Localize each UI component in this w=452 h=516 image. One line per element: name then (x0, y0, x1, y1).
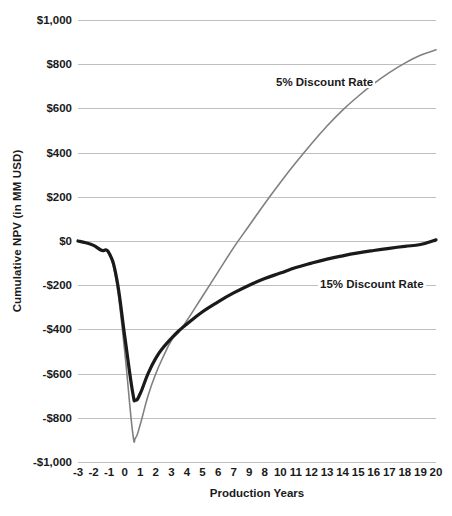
x-axis-tick-label: 14 (336, 466, 349, 478)
y-axis-tick-label: -$400 (6, 323, 78, 335)
x-axis-tick-label: 17 (383, 466, 396, 478)
x-axis-tick-label: 0 (121, 466, 127, 478)
x-axis-tick-label: 18 (398, 466, 411, 478)
cumulative-npv-chart: Cumulative NPV (in MM USD) $1,000$800$60… (0, 0, 452, 516)
x-axis-tick-label: 7 (230, 466, 236, 478)
x-axis-tick-label: 1 (137, 466, 143, 478)
y-axis-tick-label: $800 (6, 58, 78, 70)
x-axis-tick-label: 20 (430, 466, 443, 478)
y-axis-tick-label: $400 (6, 147, 78, 159)
x-axis-tick-label: 11 (290, 466, 302, 478)
y-axis-tick-label: $0 (6, 235, 78, 247)
gridline (78, 462, 436, 463)
x-axis-tick-label: 5 (199, 466, 205, 478)
x-axis-tick-labels: -3-2-101234567981011121314151617181920 (78, 466, 436, 484)
x-axis-tick-label: 6 (215, 466, 221, 478)
y-axis-tick-labels: $1,000$800$600$400$200$0-$200-$400-$600-… (0, 0, 78, 516)
x-axis-tick-label: 8 (262, 466, 268, 478)
x-axis-tick-label: -3 (73, 466, 83, 478)
x-axis-tick-label: 19 (414, 466, 427, 478)
y-axis-tick-label: $600 (6, 102, 78, 114)
y-axis-tick-label: $1,000 (6, 14, 78, 26)
y-axis-title: Cumulative NPV (in MM USD) (0, 0, 34, 462)
y-axis-tick-label: -$600 (6, 368, 78, 380)
x-axis-tick-label: 16 (367, 466, 380, 478)
x-axis-tick-label: 2 (153, 466, 159, 478)
x-axis-tick-label: 9 (246, 466, 252, 478)
x-axis-tick-label: 15 (352, 466, 365, 478)
x-axis-tick-label: 10 (274, 466, 287, 478)
series-annotation-15-percent: 15% Discount Rate (318, 278, 426, 290)
x-axis-tick-label: 3 (168, 466, 174, 478)
y-axis-title-label: Cumulative NPV (in MM USD) (11, 150, 23, 313)
x-axis-tick-label: -2 (88, 466, 98, 478)
series-annotation-5-percent: 5% Discount Rate (274, 76, 375, 88)
x-axis-tick-label: 13 (321, 466, 334, 478)
y-axis-tick-label: $200 (6, 191, 78, 203)
x-axis-tick-label: 4 (184, 466, 190, 478)
plot-area: 5% Discount Rate 15% Discount Rate (78, 20, 436, 462)
y-axis-tick-label: -$800 (6, 412, 78, 424)
series-line (78, 240, 436, 401)
x-axis-tick-label: -1 (104, 466, 114, 478)
x-axis-title: Production Years (78, 487, 436, 499)
y-axis-tick-label: -$200 (6, 279, 78, 291)
series-lines (78, 20, 436, 462)
x-axis-tick-label: 12 (305, 466, 318, 478)
y-axis-tick-label: -$1,000 (6, 456, 78, 468)
